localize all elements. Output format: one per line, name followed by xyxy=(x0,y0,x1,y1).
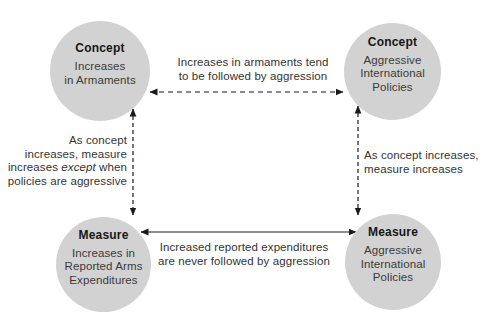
top-edge-label-line2: to be followed by aggression xyxy=(178,70,329,84)
left-edge-label-line2: increases, measure xyxy=(8,148,127,162)
node-body: Aggressive International Policies xyxy=(360,54,425,95)
concept-measure-diagram: Concept Increases in Armaments Concept A… xyxy=(0,0,486,319)
node-concept-aggressive-policies: Concept Aggressive International Policie… xyxy=(344,23,441,120)
node-measure-aggressive-policies: Measure Aggressive International Policie… xyxy=(345,214,441,310)
bottom-edge-label-line1: Increased reported expenditures xyxy=(158,241,330,255)
left-edge-label-line4: policies are aggressive xyxy=(8,175,127,189)
right-edge-label-line2: measure increases xyxy=(364,163,479,177)
top-edge-label: Increases in armaments tend to be follow… xyxy=(178,56,329,83)
left-edge-label-except-italic: except xyxy=(61,161,95,173)
node-measure-arms-expenditures: Measure Increases in Reported Arms Expen… xyxy=(56,217,151,312)
bottom-edge-label-line2: are never followed by aggression xyxy=(158,255,330,269)
right-edge-label-line1: As concept increases, xyxy=(364,149,479,163)
node-body: Increases in Armaments xyxy=(64,60,136,87)
left-edge-label-line1: As concept xyxy=(8,134,127,148)
node-body: Increases in Reported Arms Expenditures xyxy=(65,247,143,288)
left-edge-label: As concept increases, measure increases … xyxy=(8,134,127,188)
node-concept-armaments: Concept Increases in Armaments xyxy=(50,21,150,121)
left-edge-label-line3: increases except when xyxy=(8,161,127,175)
bottom-edge-label: Increased reported expenditures are neve… xyxy=(158,241,330,268)
top-edge-label-line1: Increases in armaments tend xyxy=(178,56,329,70)
right-edge-label: As concept increases, measure increases xyxy=(364,149,479,176)
node-heading: Measure xyxy=(65,228,143,242)
node-body: Aggressive International Policies xyxy=(361,244,426,285)
node-heading: Measure xyxy=(361,225,426,239)
node-heading: Concept xyxy=(360,35,425,49)
node-heading: Concept xyxy=(64,41,136,55)
